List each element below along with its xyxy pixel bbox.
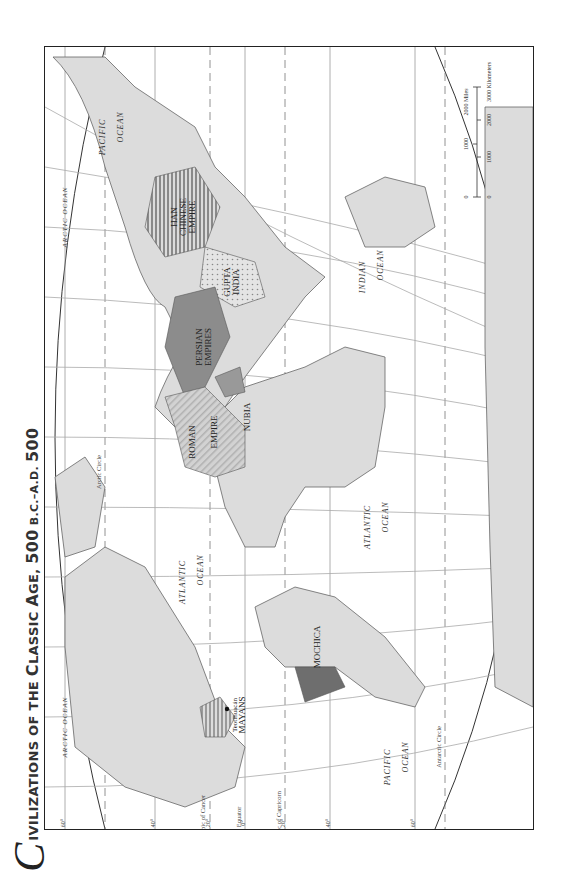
svg-text:60°: 60° — [60, 818, 66, 827]
map-title: C IVILIZATIONS OF THE CLASSIC AGE, 500 B… — [8, 352, 48, 872]
svg-text:2000 Miles: 2000 Miles — [463, 88, 469, 116]
label-antarctic-circle: Antarctic Circle — [435, 726, 442, 768]
svg-text:40°: 40° — [325, 818, 331, 827]
svg-text:1000: 1000 — [486, 151, 492, 163]
svg-text:20°: 20° — [280, 818, 286, 827]
label-arctic-bottom: ARCTIC OCEAN — [61, 697, 69, 759]
svg-text:40°: 40° — [150, 818, 156, 827]
label-gupta: GUPTAINDIA — [222, 267, 241, 297]
svg-text:0: 0 — [463, 196, 469, 199]
label-roman-1: ROMAN — [187, 425, 197, 459]
city-teotihuacan-marker — [225, 707, 229, 711]
label-arctic-top: ARCTIC OCEAN — [61, 187, 69, 249]
svg-text:2000: 2000 — [486, 114, 492, 126]
svg-text:60°: 60° — [410, 818, 416, 827]
title-initial-letter: C — [12, 843, 48, 872]
australia — [345, 177, 435, 247]
land-masses — [53, 57, 533, 807]
label-pacific-bottom: PACIFICOCEAN — [383, 741, 410, 786]
svg-text:1000: 1000 — [463, 138, 469, 150]
label-arctic-circle: Arctic Circle — [95, 455, 102, 489]
antarctica — [485, 107, 533, 707]
label-mochica: MOCHICA — [312, 625, 322, 668]
label-indian: INDIANOCEAN — [358, 249, 385, 294]
label-persian: PERSIANEMPIRES — [194, 328, 213, 366]
label-roman-2: EMPIRE — [209, 415, 219, 449]
world-map: HANCHINESEEMPIRE GUPTAINDIA PERSIANEMPIR… — [44, 46, 534, 830]
label-teotihuacan: Teotihuacán — [231, 697, 239, 732]
label-nubia: NUBIA — [242, 402, 252, 431]
region-mochica — [295, 667, 345, 702]
svg-text:0°: 0° — [240, 820, 246, 826]
svg-text:3000 Kilometers: 3000 Kilometers — [486, 61, 492, 102]
label-atlantic-south: ATLANTICOCEAN — [363, 501, 390, 550]
label-atlantic-north: ATLANTICOCEAN — [178, 554, 205, 605]
north-america — [65, 547, 245, 807]
svg-text:20°: 20° — [205, 818, 211, 827]
svg-text:0: 0 — [486, 196, 492, 199]
